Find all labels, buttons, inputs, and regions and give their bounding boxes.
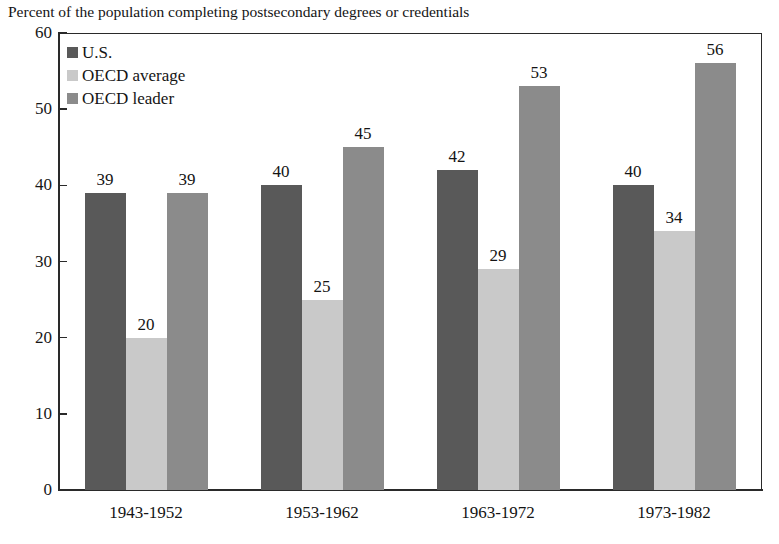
- y-axis-tick-label: 50: [0, 100, 52, 117]
- x-axis-category-label: 1943-1952: [59, 503, 234, 522]
- bar-value-label: 56: [685, 41, 746, 58]
- y-axis-tick-label: 10: [0, 405, 52, 422]
- bar-value-label: 45: [333, 125, 394, 142]
- y-axis-tick: [58, 261, 67, 262]
- y-axis-tick-label-text: 40: [8, 176, 52, 193]
- legend-item-label: OECD average: [82, 67, 185, 84]
- y-axis-tick-label-text: 20: [8, 329, 52, 346]
- y-axis-tick-label-text: 10: [8, 405, 52, 422]
- legend-swatch-icon: [67, 70, 78, 81]
- chart-title: Percent of the population completing pos…: [8, 2, 469, 22]
- bar: [85, 193, 126, 490]
- y-axis-tick-label-text: 30: [8, 253, 52, 270]
- bar-value-label: 39: [157, 171, 218, 188]
- legend-item-label: OECD leader: [82, 90, 174, 107]
- bar: [261, 185, 302, 490]
- x-axis-category-label: 1953-1962: [235, 503, 410, 522]
- y-axis-tick-label: 0: [0, 481, 52, 498]
- x-axis-category-label: 1973-1982: [587, 503, 762, 522]
- bar-value-label: 39: [75, 171, 136, 188]
- bar: [478, 269, 519, 490]
- y-axis-tick: [58, 489, 67, 490]
- bar: [302, 300, 343, 490]
- bar: [343, 147, 384, 490]
- bar-value-label: 53: [509, 64, 570, 81]
- chart-legend: U.S.OECD averageOECD leader: [67, 41, 185, 110]
- bar-value-label: 42: [427, 148, 488, 165]
- bar: [437, 170, 478, 490]
- y-axis-tick-label: 40: [0, 176, 52, 193]
- y-axis-tick-label-text: 60: [8, 24, 52, 41]
- bar: [613, 185, 654, 490]
- bar: [519, 86, 560, 490]
- x-axis-category-label: 1963-1972: [411, 503, 586, 522]
- y-axis-tick-label: 30: [0, 253, 52, 270]
- y-axis-tick: [58, 185, 67, 186]
- bar: [695, 63, 736, 490]
- bar: [126, 338, 167, 490]
- bar-value-label: 40: [603, 163, 664, 180]
- y-axis-tick-label: 60: [0, 24, 52, 41]
- bar: [654, 231, 695, 490]
- y-axis-tick-label: 20: [0, 329, 52, 346]
- legend-item: OECD leader: [67, 87, 185, 110]
- legend-swatch-icon: [67, 47, 78, 58]
- y-axis-tick: [58, 413, 67, 414]
- y-axis-tick: [58, 108, 67, 109]
- y-axis-tick: [58, 32, 67, 33]
- legend-item: U.S.: [67, 41, 185, 64]
- y-axis-tick-label-text: 50: [8, 100, 52, 117]
- legend-item: OECD average: [67, 64, 185, 87]
- y-axis-tick-label-text: 0: [8, 481, 52, 498]
- legend-swatch-icon: [67, 93, 78, 104]
- bar-value-label: 40: [251, 163, 312, 180]
- legend-item-label: U.S.: [82, 44, 112, 61]
- bar: [167, 193, 208, 490]
- bar-chart: Percent of the population completing pos…: [0, 0, 779, 544]
- y-axis-tick: [58, 337, 67, 338]
